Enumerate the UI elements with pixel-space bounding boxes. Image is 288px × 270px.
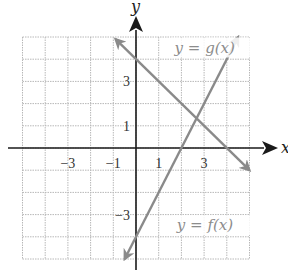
- x-tick-label: −1: [106, 156, 121, 171]
- x-tick-label: −3: [60, 156, 75, 171]
- label-f: y = f(x): [176, 216, 233, 234]
- label-g: y = g(x): [174, 39, 235, 57]
- x-axis-title: x: [281, 138, 288, 157]
- y-axis-title: y: [130, 0, 141, 16]
- x-axis-arrow-icon: [262, 141, 278, 155]
- y-tick-label: 1: [123, 119, 130, 134]
- y-axis-arrow-icon: [129, 16, 143, 32]
- x-tick-label: 3: [201, 156, 208, 171]
- y-tick-label: −3: [115, 208, 130, 223]
- function-graph: x y −3−11331−3 y = g(x)y = f(x): [0, 0, 288, 270]
- y-tick-label: 3: [123, 74, 130, 89]
- x-tick-label: 1: [155, 156, 162, 171]
